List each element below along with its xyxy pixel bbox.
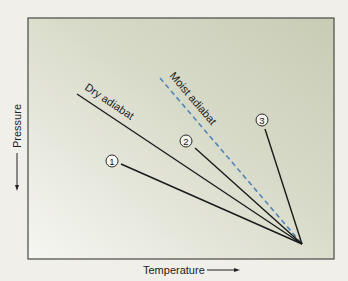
temperature-axis-label: Temperature xyxy=(143,264,205,276)
adiabat-diagram: Dry adiabat Moist adiabat 1 2 3 Pressure… xyxy=(0,0,348,281)
pressure-arrow-icon xyxy=(15,153,19,191)
temperature-arrow-icon xyxy=(207,268,240,272)
marker-1-label: 1 xyxy=(109,156,114,167)
pressure-axis-label: Pressure xyxy=(11,104,23,148)
marker-2-label: 2 xyxy=(183,136,188,147)
marker-3-label: 3 xyxy=(259,115,264,126)
